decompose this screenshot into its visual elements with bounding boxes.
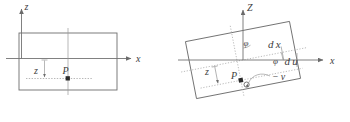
right-panel-group: Z x φ φ d x d u z P − v	[174, 2, 335, 107]
right-x-axis-label: x	[329, 55, 335, 66]
right-point-P-label: P	[230, 70, 237, 81]
right-point-P-marker	[238, 78, 243, 83]
right-depth-arrow	[215, 67, 218, 83]
dx-label: d x	[268, 38, 281, 50]
figure-root: z x z P	[0, 0, 350, 122]
du-label: d u	[285, 55, 299, 67]
right-depth-label: z	[204, 66, 209, 77]
right-panel-diagram: Z x φ φ d x d u z P − v	[0, 0, 350, 122]
angle-phi-top-label: φ	[244, 38, 249, 48]
displacement-label: − v	[272, 71, 286, 82]
angle-phi-mid-label: φ	[273, 56, 278, 66]
right-depth-tick-top	[212, 66, 218, 67]
right-Z-axis-label: Z	[247, 2, 253, 13]
